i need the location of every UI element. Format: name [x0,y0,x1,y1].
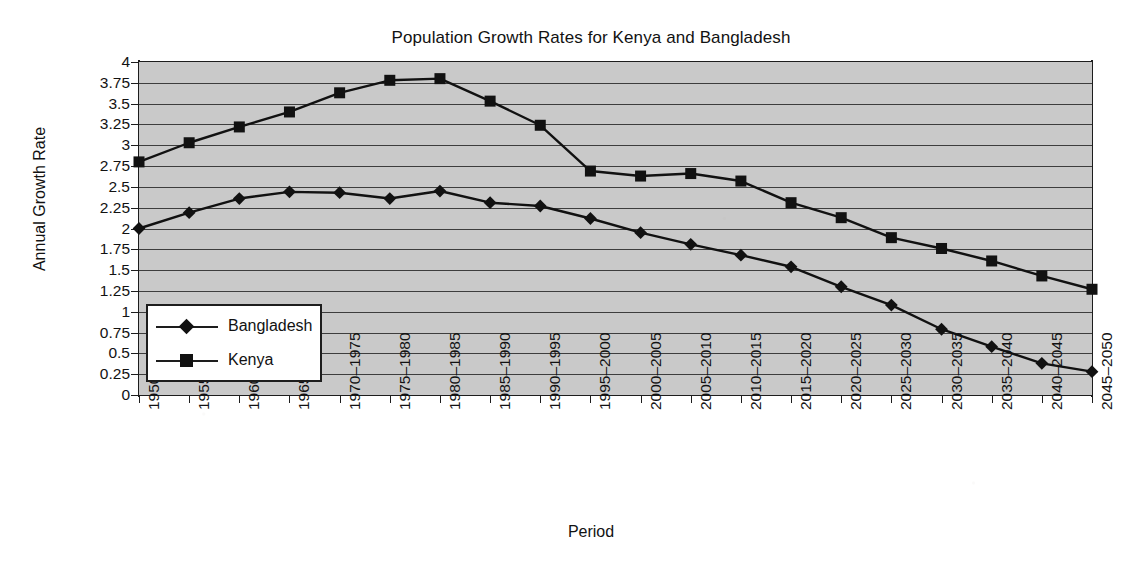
diamond-marker-icon [584,212,597,225]
y-axis-tick [131,249,139,250]
legend-item-bangladesh: Bangladesh [148,312,324,342]
square-marker-icon [334,87,345,98]
x-axis-tick [440,396,441,403]
square-marker-icon [234,121,245,132]
y-axis-tick-label: 3.25 [62,116,130,132]
y-axis-tick [131,145,139,146]
y-axis-tick-label: 0 [62,387,130,403]
diamond-marker-icon [179,319,195,335]
legend-item-kenya: Kenya [148,346,324,376]
y-axis-tick-label: 3.5 [62,96,130,112]
y-axis-tick [131,104,139,105]
square-marker-icon [485,96,496,107]
diamond-marker-icon [835,280,848,293]
diamond-marker-icon [785,260,798,273]
y-axis-tick [131,208,139,209]
x-axis-tick [189,396,190,403]
x-axis-tick [992,396,993,403]
series-line [139,79,1092,290]
series-kenya [134,73,1098,295]
square-marker-icon [134,156,145,167]
x-axis-title: Period [0,523,1132,541]
y-axis-tick-label: 0.5 [62,345,130,361]
x-axis-tick [791,396,792,403]
x-axis-tick [540,396,541,403]
y-axis-tick-label: 0.25 [62,366,130,382]
diamond-marker-icon [133,222,146,235]
x-axis-tick [239,396,240,403]
diamond-marker-icon [484,196,497,209]
legend-label-kenya: Kenya [228,351,273,369]
y-axis-tick [131,395,139,396]
y-axis-tick-label: 0.75 [62,325,130,341]
square-marker-icon [184,137,195,148]
square-marker-icon [180,354,193,367]
chart-title-text: Population Growth Rates for Kenya and Ba… [392,28,791,48]
diamond-marker-icon [183,206,196,219]
y-axis-title: Annual Growth Rate [31,99,49,299]
x-axis-tick [691,396,692,403]
diamond-marker-icon [1086,365,1099,378]
square-marker-icon [434,73,445,84]
square-marker-icon [284,106,295,117]
y-axis-tick [131,353,139,354]
x-axis-tick [139,396,140,403]
x-axis-tick [289,396,290,403]
x-axis-tick [1042,396,1043,403]
y-axis-tick [131,270,139,271]
diamond-marker-icon [734,249,747,262]
diamond-marker-icon [684,238,697,251]
square-marker-icon [1087,284,1098,295]
y-axis-tick [131,83,139,84]
x-axis-tick [1092,396,1093,403]
y-axis-tick-label: 4 [62,54,130,70]
square-marker-icon [986,255,997,266]
x-axis-title-text: Period [568,523,614,541]
diamond-marker-icon [283,185,296,198]
diamond-marker-icon [233,192,246,205]
diamond-marker-icon [1035,357,1048,370]
y-axis-tick-label: 3.75 [62,75,130,91]
y-axis-tick [131,187,139,188]
square-marker-icon [635,171,646,182]
chart-title: Population Growth Rates for Kenya and Ba… [0,28,1132,48]
y-axis-tick [131,124,139,125]
square-marker-icon [836,212,847,223]
y-axis-tick-label: 3 [62,137,130,153]
square-marker-icon [1036,270,1047,281]
y-axis-tick [131,333,139,334]
diamond-marker-icon [885,299,898,312]
x-axis-tick [340,396,341,403]
square-marker-icon [886,232,897,243]
y-axis-tick-label: 2.25 [62,200,130,216]
square-marker-icon [685,168,696,179]
legend-label-bangladesh: Bangladesh [228,317,313,335]
x-axis-tick-label: 2045–2050 [1098,332,1116,410]
diamond-marker-icon [534,200,547,213]
x-axis-tick [390,396,391,403]
y-axis-tick [131,374,139,375]
y-axis-tick-label: 1.5 [62,262,130,278]
chart-legend: Bangladesh Kenya [146,304,322,382]
square-marker-icon [535,120,546,131]
x-axis-tick [641,396,642,403]
diamond-marker-icon [333,186,346,199]
diamond-marker-icon [985,340,998,353]
square-marker-icon [735,176,746,187]
square-marker-icon [384,75,395,86]
x-axis-tick [490,396,491,403]
x-axis-tick [942,396,943,403]
diamond-marker-icon [634,226,647,239]
x-axis-tick [891,396,892,403]
x-axis-tick [841,396,842,403]
square-marker-icon [585,166,596,177]
diamond-marker-icon [434,185,447,198]
population-growth-line-chart: Population Growth Rates for Kenya and Ba… [0,0,1132,575]
x-axis-tick [590,396,591,403]
y-axis-tick [131,62,139,63]
diamond-marker-icon [935,323,948,336]
y-axis-tick-label: 2 [62,221,130,237]
y-axis-tick-label: 1 [62,304,130,320]
y-axis-tick-label: 1.75 [62,241,130,257]
square-marker-icon [786,197,797,208]
